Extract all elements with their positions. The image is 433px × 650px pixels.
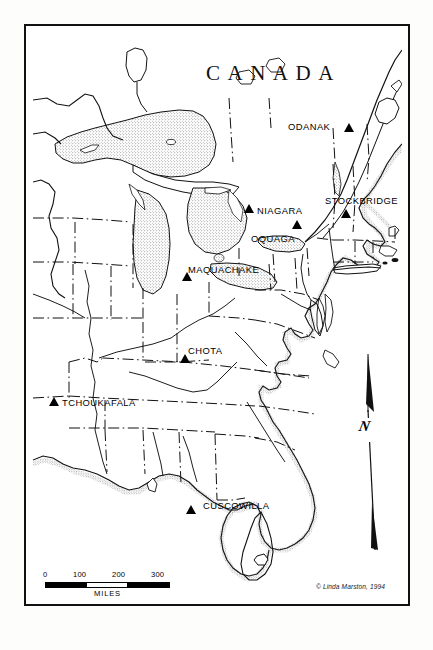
scale-tick-300: 300 [151, 570, 164, 579]
scale-tick-0: 0 [43, 570, 47, 579]
scale-tick-100: 100 [73, 570, 86, 579]
site-marker-niagara [244, 204, 254, 213]
site-marker-tchoukafala [49, 397, 59, 406]
country-label-canada: CANADA [206, 61, 341, 86]
map-credit: © Linda Marston, 1994 [316, 583, 385, 590]
scale-unit-label: MILES [45, 589, 170, 598]
scale-tick-200: 200 [112, 570, 125, 579]
site-label-oquaga: OQUAGA [251, 234, 295, 243]
scale-tick-labels: 0 100 200 300 [45, 570, 170, 581]
site-label-odanak: ODANAK [288, 122, 330, 131]
north-arrow [352, 352, 386, 552]
site-label-chota: CHOTA [188, 346, 222, 355]
map-geography [33, 32, 402, 599]
site-marker-cuscowilla [186, 505, 196, 514]
site-marker-odanak [344, 123, 354, 132]
site-marker-stockbridge [341, 209, 351, 218]
scale-bar: 0 100 200 300 MILES [45, 570, 170, 598]
site-label-stockbridge: STOCKBRIDGE [325, 196, 398, 205]
scale-bar-graphic [45, 582, 170, 588]
site-marker-oquaga [292, 220, 302, 229]
site-label-cuscowilla: CUSCOWILLA [203, 501, 270, 510]
site-label-niagara: NIAGARA [257, 206, 302, 215]
map-figure: CANADA ODANAK STOCKBRIDGE NIAGARA OQUAGA… [0, 0, 433, 650]
site-label-maquachake: MAQUACHAKE [188, 265, 259, 274]
site-label-tchoukafala: TCHOUKAFALA [62, 398, 136, 407]
